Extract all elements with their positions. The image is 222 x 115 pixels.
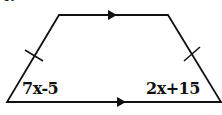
angle-label-bottom-right: 2x+15 xyxy=(146,79,200,98)
parallel-arrow-bottom-icon xyxy=(117,97,126,107)
congruent-tick-left-icon xyxy=(25,50,43,61)
parallel-arrow-top-icon xyxy=(108,10,117,20)
congruent-tick-right-icon xyxy=(184,47,200,61)
angle-label-bottom-left: 7x-5 xyxy=(22,79,58,98)
